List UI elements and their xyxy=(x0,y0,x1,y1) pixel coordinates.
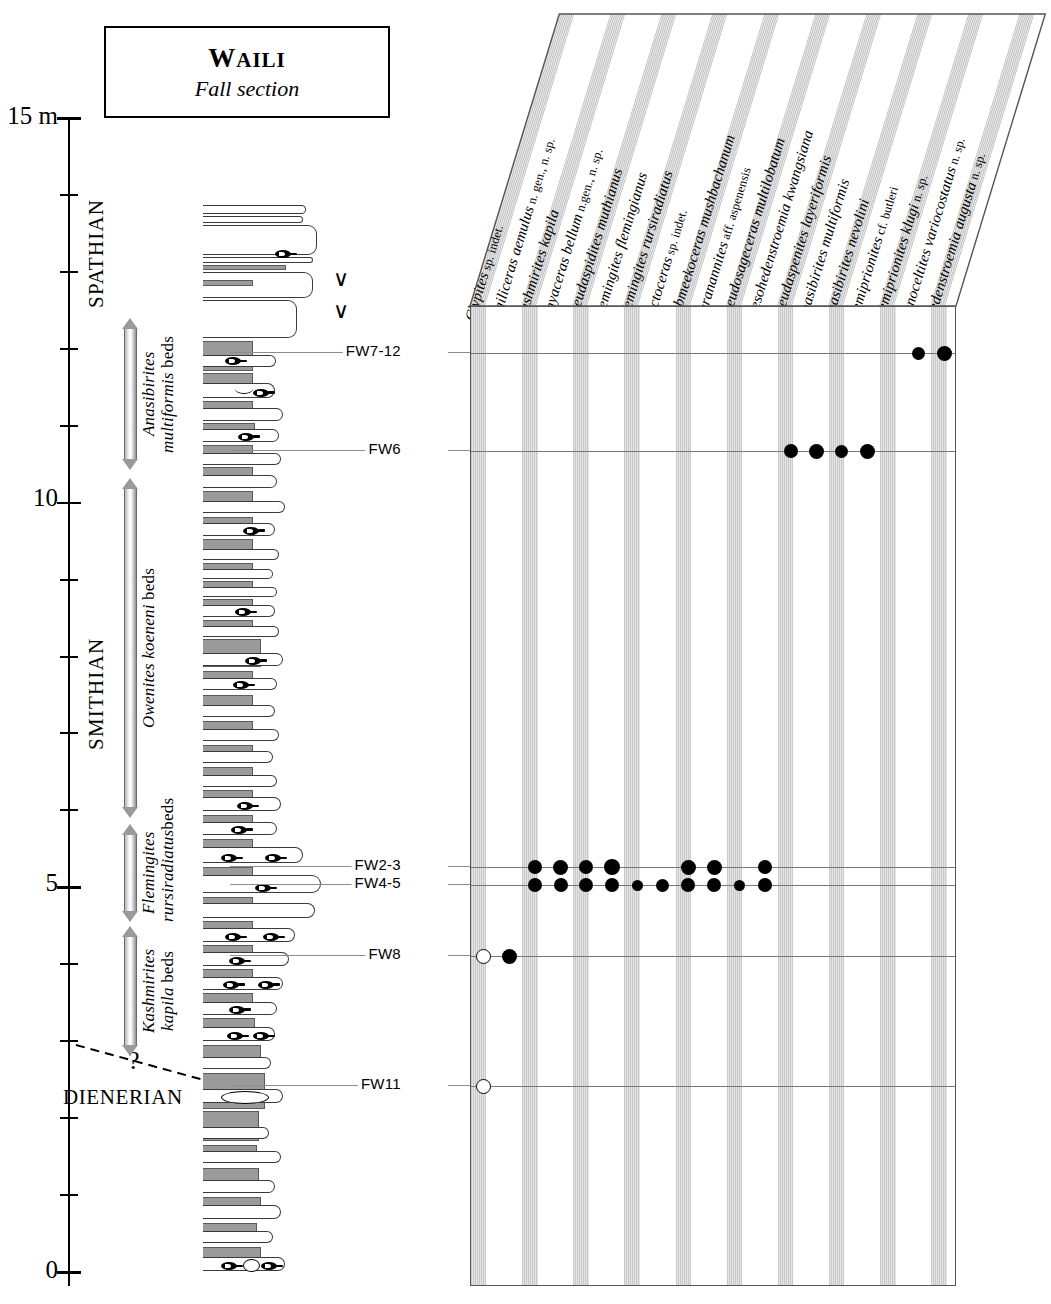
axis-tick xyxy=(60,348,78,350)
lithology-bed-lime xyxy=(203,626,279,637)
fossil-tail xyxy=(248,684,255,687)
lithology-bed-lime xyxy=(203,587,277,597)
sample-tieline-right xyxy=(448,884,472,885)
fossil-notch xyxy=(265,1264,271,1268)
taxon-column-stripe xyxy=(727,307,742,1285)
occurrence-dot xyxy=(605,878,619,892)
occurrence-dot xyxy=(937,346,952,361)
arrow-up-icon xyxy=(122,824,138,835)
fossil-notch xyxy=(262,983,268,987)
zone-label: Flemingitesrursiradiatusbeds xyxy=(140,824,177,922)
lithology-bed-lime xyxy=(203,1057,271,1069)
axis-tick xyxy=(60,425,78,427)
sample-row-line xyxy=(471,1086,955,1087)
occurrence-dot xyxy=(632,880,643,891)
ammonite-fossil-icon xyxy=(275,250,297,258)
occurrence-dot xyxy=(656,879,669,892)
taxa-header-band: Clypites sp. indet.Wailiceras aemulus n.… xyxy=(470,14,956,306)
sample-tieline-right xyxy=(448,866,472,867)
ammonite-fossil-icon xyxy=(221,854,243,862)
taxon-column-stripe xyxy=(522,307,537,1285)
title-box: WAILI Fall section xyxy=(104,26,390,118)
lithology-bed-lime xyxy=(203,225,317,255)
sample-label-fw6: FW6 xyxy=(365,440,404,457)
fossil-notch xyxy=(249,659,255,663)
ammonite-fossil-icon xyxy=(265,854,287,862)
fossil-tail xyxy=(252,805,259,808)
fossil-tail xyxy=(270,887,277,890)
fossil-notch xyxy=(257,391,263,395)
arrow-down-icon xyxy=(122,807,138,818)
lithology-bed-lime xyxy=(203,205,306,214)
ammonite-fossil-icon xyxy=(229,957,251,965)
fossil-notch xyxy=(235,828,241,832)
sample-label-fw8: FW8 xyxy=(365,945,404,962)
fossil-tail xyxy=(278,936,285,939)
occurrence-dot xyxy=(809,444,824,459)
sample-row-line xyxy=(471,353,955,354)
occurrence-dot xyxy=(554,878,568,892)
fossil-tail xyxy=(253,435,260,438)
fossil-notch xyxy=(269,856,275,860)
fossil-notch xyxy=(267,935,273,939)
axis-tick xyxy=(60,963,78,965)
occurrence-dot xyxy=(758,878,772,892)
axis-tick xyxy=(60,732,78,734)
lithology-bed-lime xyxy=(203,847,303,863)
ammonite-fossil-icon xyxy=(235,608,257,616)
ammonite-fossil-icon xyxy=(263,933,285,941)
lithology-bed-lime xyxy=(203,408,283,421)
ammonite-fossil-icon xyxy=(253,389,275,397)
fossil-notch xyxy=(279,252,285,256)
occurrence-dot xyxy=(835,445,848,458)
zone-arrow-shaft xyxy=(124,328,137,460)
occurrence-dot xyxy=(681,878,695,892)
fossil-notch xyxy=(233,959,239,963)
axis-tick xyxy=(60,1194,78,1196)
lithology-bed-lime xyxy=(203,1231,273,1243)
occurrence-dot xyxy=(912,347,925,360)
sample-row-line xyxy=(471,451,955,452)
occurrence-dot xyxy=(553,860,568,875)
occurrence-dot xyxy=(681,860,696,875)
sample-row-line xyxy=(471,956,955,957)
axis-tick xyxy=(60,656,78,658)
occurrence-dot xyxy=(476,1079,491,1094)
taxon-column-stripe xyxy=(931,307,946,1285)
fossil-notch xyxy=(257,1034,263,1038)
taxon-column-stripe xyxy=(471,307,486,1285)
zone-arrow-shaft xyxy=(124,488,137,808)
sample-label-fw7-12: FW7-12 xyxy=(343,342,404,359)
occurrence-dot xyxy=(604,859,620,875)
fossil-notch xyxy=(225,1264,231,1268)
axis-tick xyxy=(57,1271,81,1274)
fossil-notch xyxy=(227,983,233,987)
lithology-bed-lime xyxy=(203,475,277,488)
axis-tick xyxy=(60,1117,78,1119)
sample-label-fw4-5: FW4-5 xyxy=(352,874,405,891)
arrow-down-icon xyxy=(122,1045,138,1056)
axis-label: 10 xyxy=(0,484,58,512)
lithology-bed-lime xyxy=(203,653,283,666)
ammonite-fossil-icon xyxy=(238,433,260,441)
fossil-tail xyxy=(244,960,251,963)
fossil-notch xyxy=(231,1034,237,1038)
lithology-bed-lime xyxy=(203,729,279,741)
lithology-bed-lime xyxy=(203,1127,269,1139)
fossil-notch xyxy=(241,804,247,808)
lithology-bed-marl xyxy=(203,265,286,270)
ammonite-fossil-icon xyxy=(229,1006,251,1014)
sample-tieline-right xyxy=(448,450,472,451)
occurrence-dot xyxy=(528,860,542,874)
occurrence-chart xyxy=(470,306,956,1286)
lithology-bed-marl xyxy=(203,280,253,286)
bivalve-curve-icon xyxy=(235,384,253,394)
fossil-tail xyxy=(290,253,297,256)
fossil-tail xyxy=(260,659,267,662)
fossil-tail xyxy=(240,360,247,363)
lithology-log xyxy=(203,205,331,1290)
zone-arrow xyxy=(122,824,139,922)
fossil-notch xyxy=(237,683,243,687)
axis-tick xyxy=(60,809,78,811)
occurrence-dot xyxy=(734,880,745,891)
